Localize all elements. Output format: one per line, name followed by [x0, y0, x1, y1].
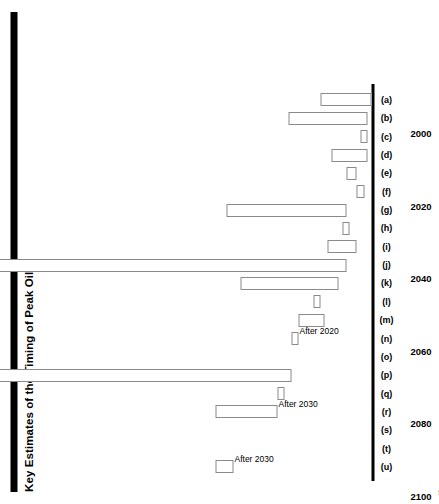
category-tick-label: (c): [374, 132, 398, 142]
category-tick-label: (d): [374, 150, 398, 160]
category-tick-label: (f): [374, 187, 398, 197]
category-tick-label: (m): [374, 315, 398, 325]
year-axis-label: 2100: [407, 491, 435, 502]
chart-bar: [313, 295, 320, 308]
category-tick-label: (l): [374, 297, 398, 307]
category-tick-label: (q): [374, 389, 398, 399]
chart-figure: Key Estimates of the Timing of Peak Oil …: [0, 0, 439, 504]
axis-baseline: [371, 84, 374, 481]
category-tick-label: (k): [374, 279, 398, 289]
category-tick-label: (h): [374, 223, 398, 233]
year-axis-label: 2060: [407, 345, 435, 356]
chart-bar: [298, 314, 323, 327]
chart-bar: [288, 112, 368, 125]
chart-bar: [346, 167, 357, 180]
category-tick-label: (j): [374, 260, 398, 270]
year-axis-label: 2020: [407, 200, 435, 211]
chart-bar: [331, 149, 367, 162]
category-tick-label: (o): [374, 352, 398, 362]
year-axis-label: 2080: [407, 418, 435, 429]
chart-bar: [226, 204, 346, 217]
chart-bar: [360, 130, 367, 143]
chart-bar: [320, 94, 371, 107]
bar-annotation: After 2020: [299, 326, 338, 336]
chart-bar: [215, 461, 233, 474]
chart-bar: [356, 185, 363, 198]
bar-annotation: After 2030: [278, 399, 317, 409]
category-tick-label: (a): [374, 95, 398, 105]
category-tick-label: (s): [374, 425, 398, 435]
category-tick-label: (t): [374, 444, 398, 454]
category-tick-label: (i): [374, 242, 398, 252]
category-tick-label: (n): [374, 334, 398, 344]
year-axis-label: 2000: [407, 128, 435, 139]
chart-bar: [342, 222, 349, 235]
chart-bar: [215, 405, 277, 418]
chart-bar: [0, 369, 291, 382]
category-tick-label: (e): [374, 168, 398, 178]
chart-bar: [0, 259, 346, 272]
category-tick-label: (r): [374, 407, 398, 417]
chart-bar: [291, 332, 298, 345]
year-axis-label: 2040: [407, 273, 435, 284]
category-tick-label: (u): [374, 462, 398, 472]
category-tick-label: (p): [374, 370, 398, 380]
plot-area: (u)(t)(s)(r)(q)(p)(o)(n)(m)(l)(k)(j)(i)(…: [0, 0, 439, 504]
chart-bar: [327, 240, 356, 253]
category-tick-label: (b): [374, 113, 398, 123]
category-tick-label: (g): [374, 205, 398, 215]
bar-annotation: After 2030: [234, 454, 273, 464]
chart-bar: [240, 277, 338, 290]
